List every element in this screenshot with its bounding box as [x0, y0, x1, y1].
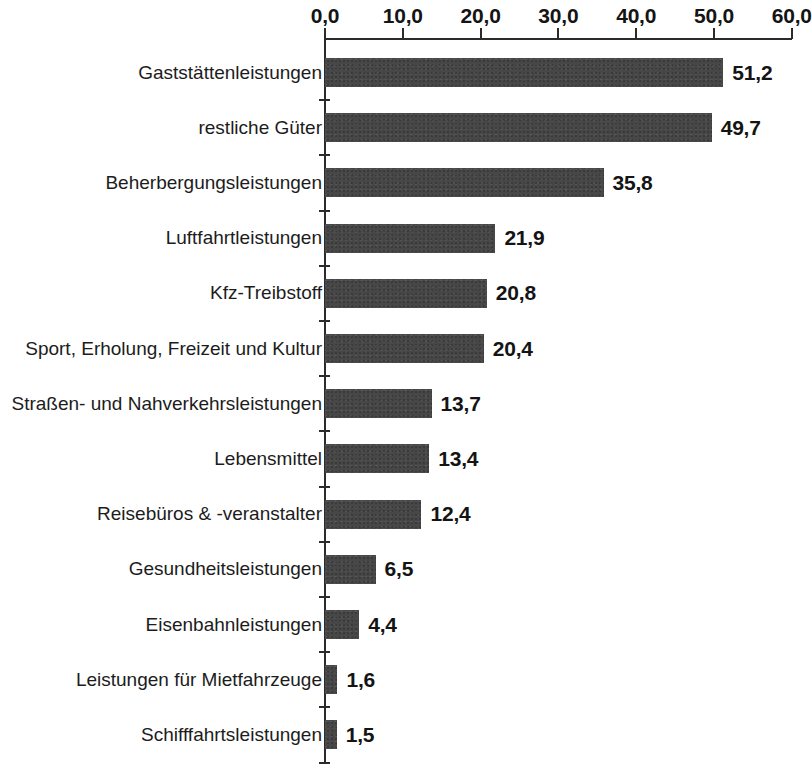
category-label: Leistungen für Mietfahrzeuge [0, 669, 325, 691]
category-label: Schifffahrtsleistungen [0, 724, 325, 746]
category-label: Gaststättenleistungen [0, 62, 325, 84]
bar-value-label: 51,2 [732, 61, 772, 85]
bar-row: Luftfahrtleistungen21,9 [0, 224, 804, 253]
category-label: restliche Güter [0, 117, 325, 139]
bar-row: Kfz-Treibstoff20,8 [0, 279, 804, 308]
bar [325, 334, 484, 363]
bar [325, 610, 359, 639]
bar-value-label: 20,4 [493, 337, 533, 361]
bar [325, 279, 487, 308]
bar-value-label: 6,5 [385, 557, 414, 581]
bar-value-label: 13,7 [441, 392, 481, 416]
bar-row: Sport, Erholung, Freizeit und Kultur20,4 [0, 334, 804, 363]
bar [325, 389, 432, 418]
bar [325, 720, 337, 749]
bar [325, 444, 429, 473]
category-label: Lebensmittel [0, 448, 325, 470]
bar-value-label: 4,4 [368, 613, 397, 637]
bar-row: Lebensmittel13,4 [0, 444, 804, 473]
bar-value-label: 21,9 [504, 226, 544, 250]
bar [325, 555, 376, 584]
bar-row: Schifffahrtsleistungen1,5 [0, 720, 804, 749]
category-label: Sport, Erholung, Freizeit und Kultur [0, 338, 325, 360]
bar-row: Eisenbahnleistungen4,4 [0, 610, 804, 639]
bar-value-label: 12,4 [430, 502, 470, 526]
bar-row: Straßen- und Nahverkehrsleistungen13,7 [0, 389, 804, 418]
bar [325, 500, 421, 529]
category-label: Beherbergungsleistungen [0, 172, 325, 194]
category-label: Luftfahrtleistungen [0, 227, 325, 249]
bar-value-label: 13,4 [438, 447, 478, 471]
bar-row: Gesundheitsleistungen6,5 [0, 555, 804, 584]
bar [325, 168, 604, 197]
bar [325, 58, 723, 87]
bar-row: restliche Güter49,7 [0, 113, 804, 142]
bar-row: Beherbergungsleistungen35,8 [0, 168, 804, 197]
bar [325, 665, 337, 694]
bar-row: Reisebüros & -veranstalter12,4 [0, 500, 804, 529]
bar-row: Leistungen für Mietfahrzeuge1,6 [0, 665, 804, 694]
bar [325, 113, 712, 142]
category-label: Straßen- und Nahverkehrsleistungen [0, 393, 325, 415]
category-label: Kfz-Treibstoff [0, 282, 325, 304]
bar-value-label: 1,6 [346, 668, 375, 692]
bar-row: Gaststättenleistungen51,2 [0, 58, 804, 87]
bar-value-label: 1,5 [346, 723, 375, 747]
category-label: Reisebüros & -veranstalter [0, 503, 325, 525]
bar-value-label: 20,8 [496, 281, 536, 305]
bar-value-label: 35,8 [613, 171, 653, 195]
bar [325, 224, 495, 253]
category-label: Gesundheitsleistungen [0, 558, 325, 580]
bar-value-label: 49,7 [721, 116, 761, 140]
category-label: Eisenbahnleistungen [0, 614, 325, 636]
